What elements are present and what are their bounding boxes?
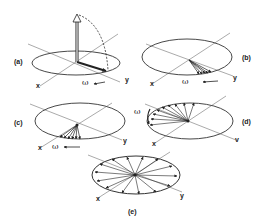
axis-y-d: v bbox=[235, 136, 239, 143]
axis-y-a: y bbox=[125, 76, 129, 84]
spin-dephasing-diagram: (a) x y ω (b) x y ω bbox=[0, 0, 264, 222]
panel-label-d: (d) bbox=[242, 118, 251, 126]
axis-x-e: x bbox=[96, 195, 100, 202]
axis-x-a: x bbox=[36, 82, 40, 89]
panel-label-a: (a) bbox=[14, 58, 23, 66]
omega-c: ω bbox=[52, 142, 59, 151]
axis-y-e: y bbox=[180, 192, 184, 200]
panel-c: (c) x y ω bbox=[14, 103, 127, 151]
axis-x-c: x bbox=[38, 144, 42, 151]
panel-e: x y (e) bbox=[88, 152, 184, 216]
panel-d: (d) x v ω bbox=[134, 96, 251, 147]
panel-label-c: (c) bbox=[14, 119, 23, 127]
axis-x-b: x bbox=[150, 80, 154, 87]
omega-d: ω bbox=[134, 107, 141, 116]
panel-label-e: (e) bbox=[128, 208, 137, 216]
panel-b: (b) x y ω bbox=[142, 33, 251, 87]
axis-x-d: x bbox=[152, 140, 156, 147]
omega-b: ω bbox=[182, 77, 189, 86]
omega-a: ω bbox=[82, 78, 89, 87]
panel-label-b: (b) bbox=[242, 54, 251, 62]
axis-y-c: y bbox=[123, 137, 127, 145]
panel-a: (a) x y ω bbox=[14, 14, 129, 89]
axis-y-b: y bbox=[233, 74, 237, 82]
